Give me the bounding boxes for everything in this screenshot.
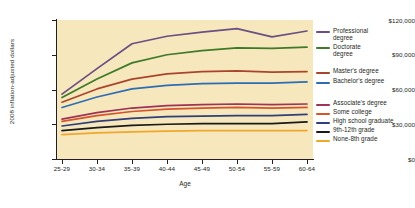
series-line [62, 122, 307, 131]
plot-area [57, 20, 313, 159]
x-tick-label: 55-59 [252, 165, 292, 172]
x-tick [237, 160, 238, 164]
x-axis-line [56, 159, 314, 160]
series-line [62, 107, 307, 121]
x-tick [272, 160, 273, 164]
x-tick [307, 160, 308, 164]
x-tick [202, 160, 203, 164]
legend-label: Associate's degree [333, 99, 415, 107]
legend-label: Professional degree [333, 27, 415, 42]
x-tick-label: 40-44 [147, 165, 187, 172]
legend-color-swatch [316, 122, 330, 124]
x-tick-label: 50-54 [217, 165, 257, 172]
legend-label: Bachelor's degree [333, 77, 415, 85]
series-line [62, 131, 307, 135]
series-lines [57, 20, 313, 159]
legend-label: Doctorate degree [333, 43, 415, 58]
x-tick-label: 45-49 [182, 165, 222, 172]
legend-color-swatch [316, 31, 330, 33]
legend: Professional degreeDoctorate degreeMaste… [316, 0, 415, 208]
x-tick-label: 35-39 [112, 165, 152, 172]
series-line [62, 71, 307, 102]
x-tick-label: 30-34 [77, 165, 117, 172]
x-tick [62, 160, 63, 164]
x-tick [97, 160, 98, 164]
x-tick-label: 25-29 [42, 165, 82, 172]
legend-label: High school graduate [333, 117, 415, 125]
legend-color-swatch [316, 72, 330, 74]
legend-color-swatch [316, 140, 330, 142]
legend-color-swatch [316, 104, 330, 106]
legend-label: Some college [333, 108, 415, 116]
x-tick [167, 160, 168, 164]
earnings-by-education-line-chart: 2008 inflation-adjusted dollars $0$30,00… [0, 0, 415, 208]
legend-color-swatch [316, 131, 330, 133]
legend-label: 9th-12th grade [333, 126, 415, 134]
legend-label: Master's degree [333, 67, 415, 75]
legend-label: None-8th grade [333, 135, 415, 143]
x-tick [132, 160, 133, 164]
legend-color-swatch [316, 82, 330, 84]
x-axis-title: Age [145, 180, 225, 187]
legend-color-swatch [316, 47, 330, 49]
legend-color-swatch [316, 113, 330, 115]
y-axis-title: 2008 inflation-adjusted dollars [8, 27, 15, 137]
series-line [62, 82, 307, 107]
